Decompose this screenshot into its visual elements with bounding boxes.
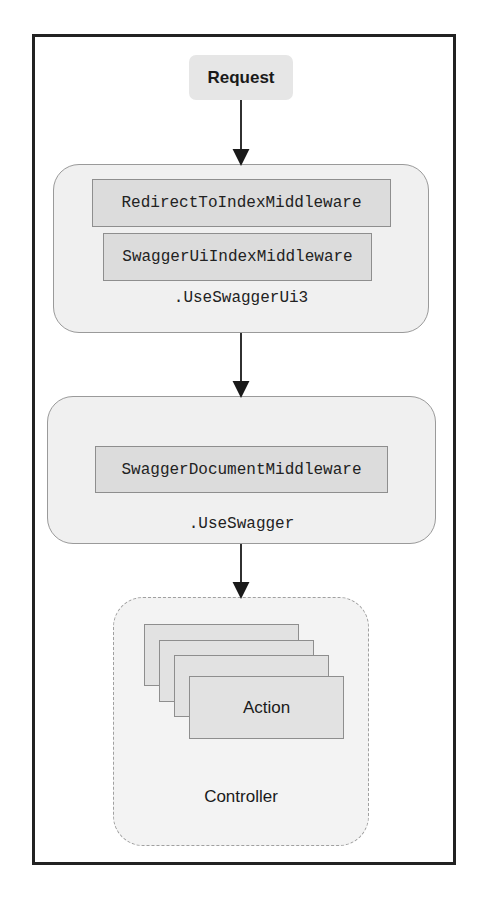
arrow-head-icon: [234, 150, 248, 164]
arrow-head-icon: [234, 382, 248, 396]
flow-arrows: [0, 0, 479, 907]
arrow-head-icon: [234, 583, 248, 597]
